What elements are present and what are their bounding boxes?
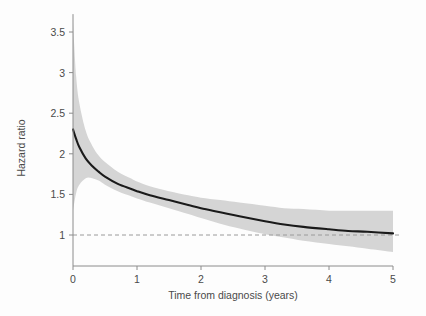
x-tick-label: 2 (198, 273, 204, 285)
x-tick-label: 4 (326, 273, 332, 285)
y-tick-label: 2.5 (50, 107, 65, 119)
hazard-ratio-figure: 11.522.533.5 012345 Hazard ratio Time fr… (0, 0, 426, 316)
x-tick-label: 3 (262, 273, 268, 285)
y-tick-label: 1.5 (50, 188, 65, 200)
y-axis-title: Hazard ratio (15, 119, 27, 176)
y-tick-label: 3.5 (50, 26, 65, 38)
x-axis-title: Time from diagnosis (years) (168, 289, 298, 301)
x-tick-label: 5 (390, 273, 396, 285)
x-tick-label: 0 (70, 273, 76, 285)
chart-canvas: 11.522.533.5 012345 Hazard ratio Time fr… (0, 0, 426, 316)
y-tick-label: 1 (59, 229, 65, 241)
x-tick-label: 1 (134, 273, 140, 285)
y-tick-label: 2 (59, 148, 65, 160)
y-tick-label: 3 (59, 67, 65, 79)
